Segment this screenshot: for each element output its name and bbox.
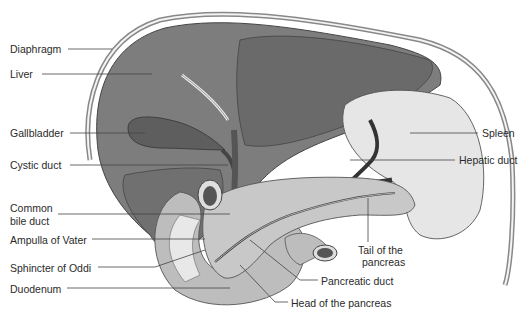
label-cystic-duct: Cystic duct [10,159,61,171]
anatomy-diagram: Diaphragm Liver Gallbladder Cystic duct … [0,0,523,318]
label-sphincter-of-oddi: Sphincter of Oddi [10,262,91,274]
label-common-bile-duct-line2: bile duct [10,215,49,227]
label-liver: Liver [10,68,33,80]
label-spleen: Spleen [482,127,515,139]
label-tail-of-pancreas-line2: pancreas [362,256,405,268]
label-pancreatic-duct: Pancreatic duct [321,275,393,287]
label-ampulla-of-vater: Ampulla of Vater [10,234,87,246]
label-common-bile-duct-line1: Common [10,202,53,214]
label-tail-of-pancreas-line1: Tail of the [358,244,403,256]
label-gallbladder: Gallbladder [10,127,64,139]
label-head-of-pancreas: Head of the pancreas [291,297,391,309]
label-hepatic-duct: Hepatic duct [459,154,517,166]
label-diaphragm: Diaphragm [10,43,61,55]
label-duodenum: Duodenum [10,283,61,295]
